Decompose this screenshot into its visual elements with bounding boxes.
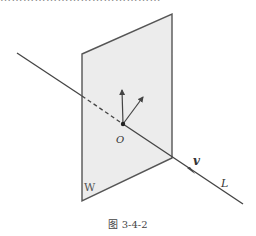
label-O: O bbox=[116, 134, 124, 145]
point-O bbox=[121, 122, 125, 126]
plane-W bbox=[82, 14, 172, 201]
label-W: W bbox=[84, 181, 95, 194]
label-L: L bbox=[221, 177, 228, 190]
line-L-segment-front bbox=[17, 53, 82, 96]
figure-caption: 图 3-4-2 bbox=[0, 216, 256, 231]
label-v: v bbox=[193, 154, 200, 168]
diagram-svg bbox=[0, 0, 256, 236]
figure-canvas: …………………………………… v L O W 图 3-4-2 bbox=[0, 0, 256, 236]
